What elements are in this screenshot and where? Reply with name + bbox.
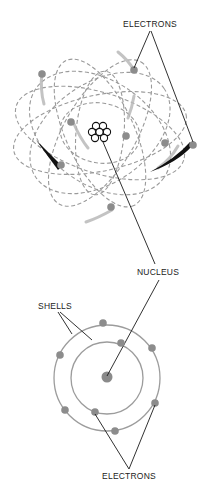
- atom-diagram: ELECTRONS NUCLEUS SHELLS ELECTRONS: [0, 0, 199, 489]
- electrons-label-bottom: ELECTRONS: [102, 471, 156, 481]
- leader-nucleus-top: [103, 142, 155, 264]
- nucleus-cluster: [88, 122, 110, 141]
- electrons-label-top: ELECTRONS: [123, 19, 177, 29]
- shells-label: SHELLS: [38, 301, 72, 311]
- nucleus-dot: [102, 372, 113, 383]
- nucleus-label: NUCLEUS: [137, 267, 179, 277]
- leader-shell-outer: [58, 312, 72, 334]
- leader-electron-bottom-2: [129, 405, 155, 469]
- orbital-model: ELECTRONS: [4, 19, 197, 264]
- leader-nucleus-bottom: [107, 280, 159, 376]
- leader-electron-bottom-1: [95, 414, 129, 469]
- shell-model: SHELLS ELECTRONS: [38, 280, 160, 481]
- leader-electron-top-2: [151, 31, 193, 142]
